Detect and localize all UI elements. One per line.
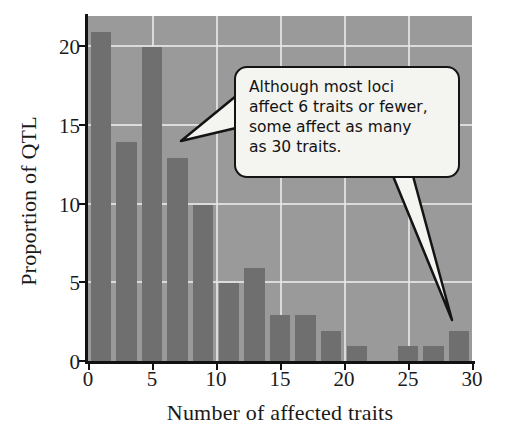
bar (116, 142, 136, 362)
x-axis-tick-label: 20 (334, 369, 355, 390)
bar (423, 346, 443, 362)
bar (295, 315, 315, 362)
y-axis-tick-labels: 05101520 (36, 16, 80, 362)
y-axis-title: Proportion of QTL (16, 76, 42, 326)
y-axis-line (85, 14, 88, 364)
x-axis-tick-label: 10 (206, 369, 227, 390)
x-axis-title: Number of affected traits (88, 400, 472, 426)
y-axis-tick-label: 15 (59, 116, 80, 137)
gridline-vertical (280, 16, 282, 362)
bar (219, 283, 239, 362)
bar (270, 315, 290, 362)
bar (449, 331, 469, 362)
chart-figure: 05101520 Proportion of QTL 051015202530 … (0, 0, 509, 442)
plot-area (88, 16, 472, 362)
y-axis-tick-label: 0 (70, 352, 81, 373)
bar (244, 268, 264, 362)
bar (398, 346, 418, 362)
bar (347, 346, 367, 362)
gridline-vertical (344, 16, 346, 362)
bar (321, 331, 341, 362)
y-axis-tick-label: 20 (59, 37, 80, 58)
x-axis-tick-label: 5 (147, 369, 158, 390)
x-axis-tick-label: 25 (398, 369, 419, 390)
bar (167, 158, 187, 362)
x-axis-tick-label: 30 (462, 369, 483, 390)
bar (142, 47, 162, 362)
bar (193, 205, 213, 362)
x-axis-tick-label: 15 (270, 369, 291, 390)
x-axis-tick-label: 0 (83, 369, 94, 390)
bar (91, 32, 111, 362)
gridline-vertical (408, 16, 410, 362)
y-axis-tick-label: 10 (59, 194, 80, 215)
x-axis-tick-labels: 051015202530 (88, 369, 472, 395)
x-axis-line (85, 361, 475, 364)
